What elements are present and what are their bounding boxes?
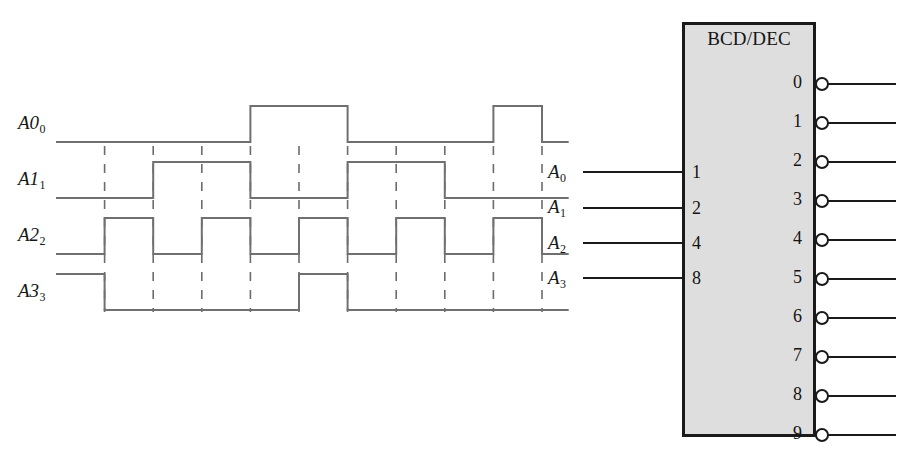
inverting-bubble-icon-5 <box>816 273 828 285</box>
decoder-input-wires <box>583 172 682 278</box>
waveform-label-a3: A33 <box>18 281 45 300</box>
decoder-output-wires <box>828 84 896 435</box>
waveform-label-a2: A22 <box>18 225 45 244</box>
inverting-bubble-icon-8 <box>816 390 828 402</box>
decoder-output-pin-3: 3 <box>766 190 802 208</box>
decoder-output-pin-0: 0 <box>766 73 802 91</box>
timing-trace-a1 <box>56 162 569 198</box>
inverting-bubble-icon-3 <box>816 195 828 207</box>
figure-root: A00 A11 A22 A33 A0 A1 A2 A3 BCD/DEC 1 2 … <box>0 0 906 468</box>
decoder-input-pin-1: 1 <box>692 163 701 181</box>
inverting-bubble-icon-1 <box>816 117 828 129</box>
waveform-label-a0: A00 <box>18 113 45 132</box>
decoder-output-bubbles <box>816 78 828 441</box>
timing-signal-traces <box>56 106 569 310</box>
decoder-output-pin-1: 1 <box>766 112 802 130</box>
decoder-block-title: BCD/DEC <box>682 28 816 50</box>
timing-trace-a0 <box>56 106 569 142</box>
decoder-input-pin-2: 2 <box>692 199 701 217</box>
decoder-input-label-a2: A2 <box>548 233 566 252</box>
inverting-bubble-icon-9 <box>816 429 828 441</box>
timing-grid-dashes <box>105 146 542 312</box>
decoder-input-pin-8: 8 <box>692 269 701 287</box>
decoder-input-label-a1: A1 <box>548 197 566 216</box>
timing-trace-a2 <box>56 218 569 254</box>
inverting-bubble-icon-4 <box>816 234 828 246</box>
inverting-bubble-icon-7 <box>816 351 828 363</box>
decoder-output-pin-2: 2 <box>766 151 802 169</box>
waveform-label-a1: A11 <box>18 169 45 188</box>
decoder-input-label-a0: A0 <box>548 162 566 181</box>
timing-trace-a3 <box>56 274 569 310</box>
decoder-output-pin-7: 7 <box>766 346 802 364</box>
inverting-bubble-icon-6 <box>816 312 828 324</box>
decoder-input-pin-4: 4 <box>692 234 701 252</box>
decoder-output-pin-6: 6 <box>766 307 802 325</box>
decoder-input-label-a3: A3 <box>548 268 566 287</box>
decoder-output-pin-4: 4 <box>766 229 802 247</box>
inverting-bubble-icon-0 <box>816 78 828 90</box>
inverting-bubble-icon-2 <box>816 156 828 168</box>
decoder-output-pin-9: 9 <box>766 424 802 442</box>
decoder-output-pin-8: 8 <box>766 385 802 403</box>
decoder-output-pin-5: 5 <box>766 268 802 286</box>
